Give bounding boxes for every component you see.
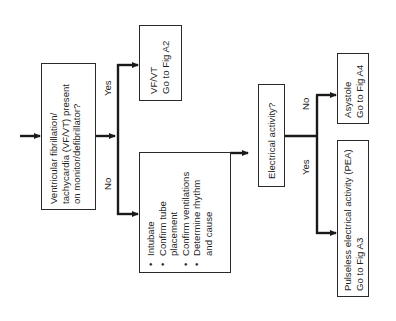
start-question-text: Ventricular fibrillation/ tachycardia (V… (48, 84, 83, 204)
branch1-yes-label: Yes (102, 80, 113, 96)
branch2-yes-label: Yes (300, 159, 311, 175)
start-line-2: tachycardia (VF/VT) present (60, 84, 72, 204)
flowchart-canvas: Ventricular fibrillation/ tachycardia (V… (0, 0, 396, 321)
actions-list: Intubate Confirm tubeplacement Confirm v… (145, 172, 214, 267)
branch1-no-label: No (102, 178, 113, 190)
actions-box: Intubate Confirm tubeplacement Confirm v… (139, 152, 231, 273)
vfvt-box: VF/VT Go to Fig A2 (139, 25, 182, 101)
asystole-line-1: Asystole (342, 65, 354, 118)
pea-box: Pulseless electrical activity (PEA) Go t… (337, 140, 369, 297)
vfvt-line-2: Go to Fig A2 (160, 41, 172, 94)
vfvt-line-1: VF/VT (148, 41, 160, 94)
electrical-activity-box: Electrical activity? (258, 84, 285, 187)
asystole-line-2: Go to Fig A4 (354, 65, 366, 118)
branch2-no-label: No (300, 98, 311, 110)
pea-line-1: Pulseless electrical activity (PEA) (342, 149, 354, 291)
start-question-box: Ventricular fibrillation/ tachycardia (V… (41, 63, 96, 210)
action-item-confirm-tube: Confirm tubeplacement (157, 172, 180, 267)
asystole-box: Asystole Go to Fig A4 (337, 53, 369, 124)
electrical-text: Electrical activity? (266, 103, 278, 179)
action-item-determine-rhythm: Determine rhythmand cause (191, 172, 214, 267)
vfvt-text: VF/VT Go to Fig A2 (148, 41, 171, 94)
action-item-confirm-ventilations: Confirm ventilations (180, 172, 192, 267)
pea-line-2: Go to Fig A3 (354, 149, 366, 291)
start-line-3: on monitor/defibrillator? (71, 84, 83, 204)
pea-text: Pulseless electrical activity (PEA) Go t… (342, 149, 365, 291)
action-item-intubate: Intubate (145, 172, 157, 267)
electrical-line-1: Electrical activity? (266, 103, 278, 179)
asystole-text: Asystole Go to Fig A4 (342, 65, 365, 118)
start-line-1: Ventricular fibrillation/ (48, 84, 60, 204)
